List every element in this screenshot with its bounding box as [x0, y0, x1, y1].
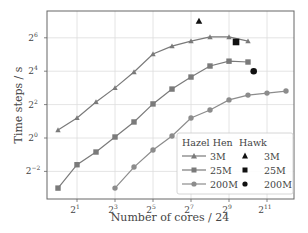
- square-marker-icon: [192, 168, 197, 173]
- x-axis-label: Number of cores / 24: [111, 211, 230, 224]
- legend-title-hawk: Hawk: [239, 137, 267, 148]
- series-hawk-25m: [233, 39, 240, 46]
- x-tick-label: 21: [70, 203, 80, 215]
- legend-title-hazel-hen: Hazel Hen: [182, 137, 233, 148]
- square-marker-icon: [55, 185, 60, 190]
- square-marker-icon: [112, 134, 117, 139]
- legend-label-hawk-200m: 200M: [264, 179, 292, 190]
- circle-marker-icon: [226, 97, 231, 102]
- circle-marker-icon: [188, 115, 193, 120]
- square-marker-icon: [188, 74, 193, 79]
- legend-label-hazel-3m: 3M: [210, 151, 226, 162]
- scaling-chart: 2123252729211 262422202−2 Number of core…: [0, 0, 308, 233]
- legend-label-hawk-25m: 25M: [264, 165, 286, 176]
- square-marker-icon: [207, 63, 212, 68]
- circle-marker-icon: [242, 181, 247, 186]
- circle-marker-icon: [150, 147, 155, 152]
- circle-marker-icon: [207, 107, 212, 112]
- series-hawk-3m: [196, 18, 203, 24]
- square-marker-icon: [74, 162, 79, 167]
- triangle-marker-icon: [55, 127, 60, 132]
- square-marker-icon: [150, 101, 155, 106]
- square-marker-icon: [169, 86, 174, 91]
- circle-marker-icon: [191, 181, 196, 186]
- series-hawk-200m: [250, 68, 257, 75]
- legend-label-hazel-25m: 25M: [210, 165, 232, 176]
- y-tick-label: 22: [28, 98, 38, 110]
- y-tick-label: 2−2: [26, 164, 41, 176]
- circle-marker-icon: [131, 164, 136, 169]
- square-marker-icon: [226, 58, 231, 63]
- legend-label-hawk-3m: 3M: [264, 151, 280, 162]
- y-tick-label: 20: [28, 131, 38, 143]
- y-axis-ticks: 262422202−2: [26, 31, 47, 177]
- square-marker-icon: [245, 59, 250, 64]
- square-marker-icon: [131, 119, 136, 124]
- legend: Hazel Hen Hawk 3M 3M 25M 25M 200M 200M: [177, 133, 293, 194]
- triangle-marker-icon: [196, 18, 203, 24]
- circle-marker-icon: [283, 88, 288, 93]
- square-marker-icon: [243, 168, 248, 173]
- square-marker-icon: [233, 39, 240, 46]
- y-tick-label: 24: [28, 64, 38, 76]
- circle-marker-icon: [169, 133, 174, 138]
- legend-label-hazel-200m: 200M: [210, 179, 238, 190]
- y-tick-label: 26: [28, 31, 38, 43]
- x-tick-label: 211: [258, 203, 271, 215]
- square-marker-icon: [93, 149, 98, 154]
- circle-marker-icon: [250, 68, 257, 75]
- circle-marker-icon: [245, 92, 250, 97]
- y-axis-label: Time steps / s: [12, 66, 25, 143]
- circle-marker-icon: [112, 185, 117, 190]
- circle-marker-icon: [264, 90, 269, 95]
